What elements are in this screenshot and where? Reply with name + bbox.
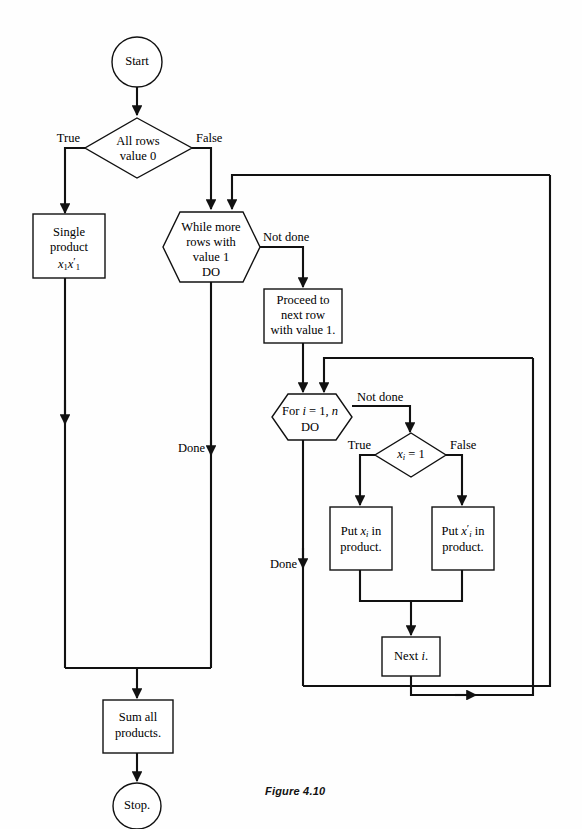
node-put-xi-prime-label-2: product.	[442, 540, 483, 554]
node-all-rows-zero-label-2: value 0	[120, 149, 156, 163]
edge-decision-true-to-single-product	[65, 148, 85, 213]
node-while-label-4: DO	[202, 265, 220, 279]
edge-outer-loop-return-to-while	[232, 175, 550, 209]
node-xi-equals-1-label: xi = 1	[396, 447, 425, 462]
node-proceed-label-3: with value 1.	[271, 323, 336, 337]
for-mid: = 1,	[306, 404, 332, 418]
node-all-rows-zero-label-1: All rows	[116, 134, 160, 148]
node-proceed-label-2: next row	[281, 308, 325, 322]
node-while-label-2: rows with	[186, 235, 236, 249]
edge-label-while-done: Done	[178, 441, 206, 455]
edge-label-for-done: Done	[270, 557, 298, 571]
node-put-xi-label-2: product.	[340, 540, 381, 554]
node-put-xi	[330, 507, 392, 570]
put-xi-suffix: in	[368, 524, 382, 538]
edge-decision-false-to-while	[192, 148, 211, 209]
node-single-product-label-1: Single	[53, 225, 85, 239]
figure-page: Start All rows value 0 Single product x1…	[0, 0, 582, 829]
edge-for-notdone-to-xi-decision	[352, 406, 410, 432]
edge-xi-false-to-put-xi-prime	[446, 455, 462, 505]
node-for-label-2: DO	[301, 420, 319, 434]
node-start-label: Start	[125, 54, 149, 68]
node-while-label-1: While more	[181, 220, 241, 234]
edge-label-xi-true: True	[348, 438, 372, 452]
for-n: n	[332, 404, 338, 418]
edge-label-true-left: True	[57, 131, 81, 145]
for-prefix: For	[282, 404, 303, 418]
edge-label-xi-false: False	[450, 438, 477, 452]
node-put-xi-prime-label-1: Put x′i in	[441, 522, 485, 539]
xi-rest: = 1	[405, 447, 425, 461]
put-xip-prefix: Put	[441, 524, 461, 538]
edge-label-false-right: False	[196, 131, 223, 145]
node-single-product-label-2: product	[50, 240, 89, 254]
edge-label-while-not-done: Not done	[263, 230, 310, 244]
node-sum-all-label-1: Sum all	[119, 710, 158, 724]
node-sum-all-label-2: products.	[115, 726, 161, 740]
put-xi-prefix: Put	[341, 524, 361, 538]
flowchart-canvas: Start All rows value 0 Single product x1…	[0, 0, 582, 829]
edge-merge-put-boxes	[360, 570, 462, 601]
figure-caption: Figure 4.10	[265, 785, 325, 797]
node-put-xi-label-1: Put xi in	[341, 524, 382, 539]
node-while-label-3: value 1	[193, 250, 229, 264]
node-stop-label: Stop.	[124, 798, 150, 812]
single-product-x1p-sub: 1	[76, 262, 80, 272]
edge-inner-loop-return-to-for	[324, 358, 533, 392]
node-for-label-1: For i = 1, n	[282, 404, 338, 418]
put-xip-suffix: in	[472, 524, 486, 538]
edge-xi-true-to-put-xi	[360, 455, 375, 505]
node-proceed-label-1: Proceed to	[276, 293, 329, 307]
edge-label-for-not-done: Not done	[357, 390, 404, 404]
next-i-prefix: Next	[394, 649, 421, 663]
node-next-i-label: Next i.	[394, 649, 428, 663]
edge-while-notdone-to-proceed	[260, 247, 303, 287]
next-i-suffix: .	[425, 649, 428, 663]
node-put-xi-prime	[432, 507, 494, 570]
